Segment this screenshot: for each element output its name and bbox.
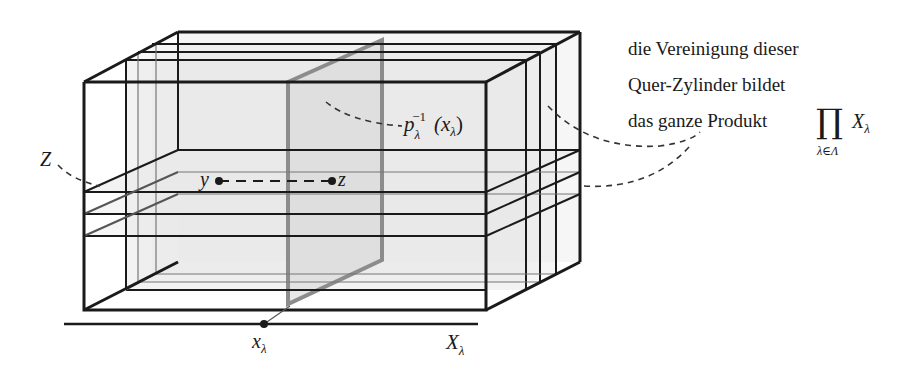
product-term: Xλ xyxy=(852,110,870,133)
x-point-label: x xyxy=(252,330,261,352)
preimage-arg-sub: λ xyxy=(450,124,456,139)
preimage-close: ) xyxy=(456,112,463,136)
product-index: λ∈Λ xyxy=(817,144,838,159)
axis-label: X xyxy=(446,330,459,354)
product-symbol: ∏ xyxy=(816,104,843,138)
label-x-lambda: xλ xyxy=(252,330,267,353)
product-term-X: X xyxy=(852,110,864,132)
annotation-line-1: die Vereinigung dieser xyxy=(628,38,799,60)
label-preimage: pλ−1(xλ) xyxy=(404,112,463,137)
annotation-line-3: das ganze Produkt xyxy=(628,110,767,132)
product-term-sub: λ xyxy=(864,121,870,136)
label-y: y xyxy=(200,168,209,191)
x-point-sub: λ xyxy=(261,341,267,356)
label-axis-X-lambda: Xλ xyxy=(446,330,464,355)
axis-sub: λ xyxy=(459,343,465,358)
point-x-lambda xyxy=(260,320,268,328)
preimage-arg: (x xyxy=(434,112,450,136)
preimage-sub: λ xyxy=(415,127,421,142)
annotation-line-2: Quer-Zylinder bildet xyxy=(628,74,785,96)
label-z-cylinder: Z xyxy=(40,148,51,171)
label-z-point: z xyxy=(338,168,346,191)
preimage-sup: −1 xyxy=(412,109,426,124)
